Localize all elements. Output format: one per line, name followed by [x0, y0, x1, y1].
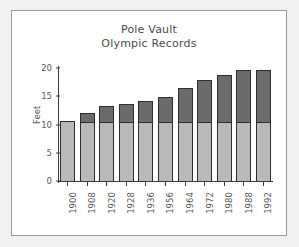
- stacked-bar[interactable]: [236, 70, 251, 181]
- y-axis-tick-label: 20: [41, 63, 52, 73]
- bar-segment-base: [100, 122, 113, 181]
- bar-column: [158, 68, 173, 181]
- bar-segment-gain: [257, 71, 270, 121]
- bar-column: [256, 68, 271, 181]
- x-axis-tick-mark: [165, 182, 166, 186]
- x-axis-tick-mark: [224, 182, 225, 186]
- stacked-bar[interactable]: [158, 97, 173, 181]
- x-axis-label-slot: 1900: [60, 187, 75, 233]
- x-axis-label-slot: 1992: [256, 187, 271, 233]
- chart-frame: Pole Vault Olympic Records Feet 05101520…: [11, 10, 287, 236]
- x-axis-label: 1972: [205, 192, 215, 214]
- bar-segment-base: [61, 122, 74, 181]
- chart-title-line-1: Pole Vault: [12, 23, 286, 37]
- x-axis-label: 1920: [107, 192, 117, 214]
- stacked-bar[interactable]: [60, 121, 75, 181]
- x-axis-label: 1908: [87, 192, 97, 214]
- bar-column: [80, 68, 95, 181]
- x-axis-tick: [119, 182, 134, 186]
- stacked-bar[interactable]: [119, 104, 134, 181]
- x-axis-label: 1980: [224, 192, 234, 214]
- bar-segment-base: [218, 122, 231, 181]
- x-axis-label-slot: 1988: [236, 187, 251, 233]
- x-axis-label: 1928: [126, 192, 136, 214]
- x-axis-label-slot: 1956: [158, 187, 173, 233]
- stacked-bar[interactable]: [80, 113, 95, 181]
- x-axis-tick-mark: [87, 182, 88, 186]
- x-axis-tick: [217, 182, 232, 186]
- stacked-bar[interactable]: [178, 88, 193, 181]
- x-axis-tick-mark: [145, 182, 146, 186]
- x-axis-label-slot: 1920: [99, 187, 114, 233]
- bar-column: [178, 68, 193, 181]
- bar-column: [217, 68, 232, 181]
- x-axis-tick-mark: [67, 182, 68, 186]
- bar-segment-base: [120, 122, 133, 181]
- x-axis-tick: [138, 182, 153, 186]
- pole-vault-bar-chart: Pole Vault Olympic Records Feet 05101520…: [12, 11, 286, 235]
- x-axis-tick: [158, 182, 173, 186]
- x-axis-tick: [256, 182, 271, 186]
- x-axis-label-slot: 1928: [119, 187, 134, 233]
- bar-segment-base: [198, 122, 211, 181]
- bar-column: [99, 68, 114, 181]
- bar-segment-gain: [237, 71, 250, 121]
- bar-segment-gain: [139, 102, 152, 122]
- x-axis-tick: [80, 182, 95, 186]
- x-axis-tick-mark: [106, 182, 107, 186]
- bar-segment-gain: [120, 105, 133, 122]
- bar-segment-gain: [179, 89, 192, 122]
- x-axis-label: 1964: [185, 192, 195, 214]
- x-axis-tick: [236, 182, 251, 186]
- x-axis-tick: [99, 182, 114, 186]
- x-axis-tick-mark: [243, 182, 244, 186]
- x-axis-tick-mark: [185, 182, 186, 186]
- x-axis-label: 1956: [165, 192, 175, 214]
- bar-segment-base: [237, 122, 250, 181]
- y-axis-tick-label: 0: [47, 176, 52, 186]
- y-axis-tick-label: 5: [47, 148, 52, 158]
- bar-segment-gain: [100, 107, 113, 121]
- chart-title-line-2: Olympic Records: [12, 37, 286, 51]
- x-axis-label: 1936: [146, 192, 156, 214]
- x-axis-tick-mark: [126, 182, 127, 186]
- x-axis-label-slot: 1908: [80, 187, 95, 233]
- x-axis-label: 1900: [68, 192, 78, 214]
- bar-column: [60, 68, 75, 181]
- bar-segment-base: [159, 122, 172, 181]
- x-axis-label-slot: 1980: [217, 187, 232, 233]
- y-axis-tick-label: 10: [41, 120, 52, 130]
- bar-segment-base: [257, 122, 270, 181]
- stacked-bar[interactable]: [99, 106, 114, 181]
- chart-title: Pole Vault Olympic Records: [12, 23, 286, 51]
- stacked-bar[interactable]: [256, 70, 271, 181]
- plot-area: 05101520: [59, 68, 272, 181]
- bar-segment-gain: [81, 114, 94, 122]
- bar-segment-gain: [218, 76, 231, 121]
- x-axis-tick: [60, 182, 75, 186]
- bar-segment-gain: [159, 98, 172, 121]
- x-axis-tick-mark: [204, 182, 205, 186]
- bar-series-group: [59, 68, 272, 181]
- bar-column: [138, 68, 153, 181]
- x-axis-labels: 1900190819201928193619561964197219801988…: [59, 187, 272, 233]
- bar-segment-base: [179, 122, 192, 181]
- x-axis-label: 1992: [263, 192, 273, 214]
- x-axis-label-slot: 1972: [197, 187, 212, 233]
- x-axis-tick: [178, 182, 193, 186]
- bar-column: [197, 68, 212, 181]
- bar-column: [236, 68, 251, 181]
- stacked-bar[interactable]: [217, 75, 232, 181]
- x-axis-tick-mark: [263, 182, 264, 186]
- x-axis-label-slot: 1964: [178, 187, 193, 233]
- x-axis-ticks: [59, 182, 272, 186]
- bar-segment-gain: [198, 81, 211, 122]
- bar-segment-base: [81, 122, 94, 181]
- stacked-bar[interactable]: [197, 80, 212, 181]
- x-axis-tick: [197, 182, 212, 186]
- bar-column: [119, 68, 134, 181]
- stacked-bar[interactable]: [138, 101, 153, 181]
- x-axis-label: 1988: [244, 192, 254, 214]
- y-axis-tick-label: 15: [41, 91, 52, 101]
- x-axis-label-slot: 1936: [138, 187, 153, 233]
